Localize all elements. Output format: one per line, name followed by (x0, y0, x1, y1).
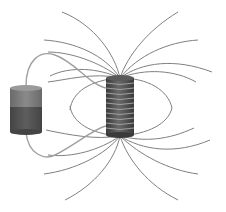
diagram-canvas (0, 0, 226, 212)
electromagnet-diagram (0, 0, 226, 212)
battery (10, 85, 42, 135)
solenoid-coil (106, 75, 134, 138)
